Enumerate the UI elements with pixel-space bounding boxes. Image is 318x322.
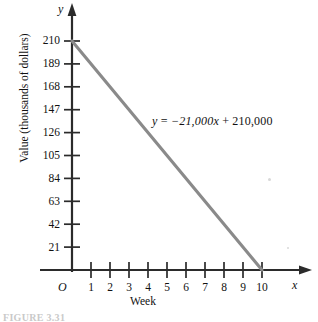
y-tick-label-21: 21 [26,242,60,254]
x-axis-title: Week [130,295,156,307]
equation-equals: = [161,114,168,128]
scan-speck [287,247,289,249]
x-tick-label-7: 7 [197,282,213,294]
origin-label: O [58,280,67,295]
scan-speck [268,178,271,181]
x-tick-label-6: 6 [178,282,194,294]
x-tick-label-4: 4 [140,282,156,294]
x-tick-label-1: 1 [83,282,99,294]
equation-intercept: 210,000 [232,114,272,128]
y-axis-variable-label: y [58,2,63,17]
y-axis-title: Value (thousands of dollars) [18,3,34,193]
x-tick-label-10: 10 [254,282,270,294]
y-tick-label-63: 63 [26,196,60,208]
x-tick-label-2: 2 [102,282,118,294]
y-axis-title-text: Value (thousands of dollars) [18,3,30,193]
figure-container: 210 189 168 147 126 105 84 63 42 21 1 2 … [0,0,318,322]
x-tick-label-9: 9 [235,282,251,294]
x-tick-label-5: 5 [159,282,175,294]
scan-speck [251,122,253,124]
x-axis-variable-label: x [292,278,297,293]
y-tick-label-42: 42 [26,219,60,231]
equation-slope-term: −21,000x [171,114,219,128]
figure-caption: FIGURE 3.31 [3,312,65,322]
x-tick-label-8: 8 [216,282,232,294]
y-axis-arrowhead [68,3,77,16]
data-line-value [72,41,262,270]
x-tick-label-3: 3 [121,282,137,294]
equation-annotation: y = −21,000x + 210,000 [152,114,273,129]
x-axis-arrowhead [299,266,312,275]
